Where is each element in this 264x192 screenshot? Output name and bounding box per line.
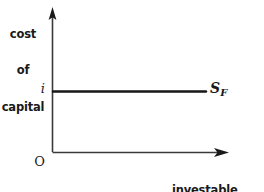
y-axis-label-line-1: cost — [0, 28, 46, 40]
y-axis-label-line-3: capital — [0, 101, 46, 113]
y-axis-label-line-2: of — [0, 64, 46, 76]
x-axis-label-line-1: investable — [172, 184, 238, 192]
supply-curve-label: SF — [210, 81, 227, 99]
supply-curve-symbol: S — [210, 80, 220, 96]
supply-curve-subscript: F — [220, 87, 227, 98]
interest-rate-tick-label: i — [33, 82, 45, 96]
y-axis-label: cost of capital — [0, 4, 46, 137]
origin-label: O — [33, 155, 45, 169]
x-axis-label: investable funds ($) — [172, 160, 238, 192]
supply-of-funds-diagram: cost of capital investable funds ($) i O… — [0, 0, 264, 192]
